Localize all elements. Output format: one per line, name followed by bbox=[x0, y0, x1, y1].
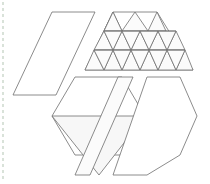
polygon-figure bbox=[0, 0, 210, 184]
trapezoid-triangle-grid bbox=[85, 12, 193, 70]
figure-canvas bbox=[0, 0, 210, 184]
